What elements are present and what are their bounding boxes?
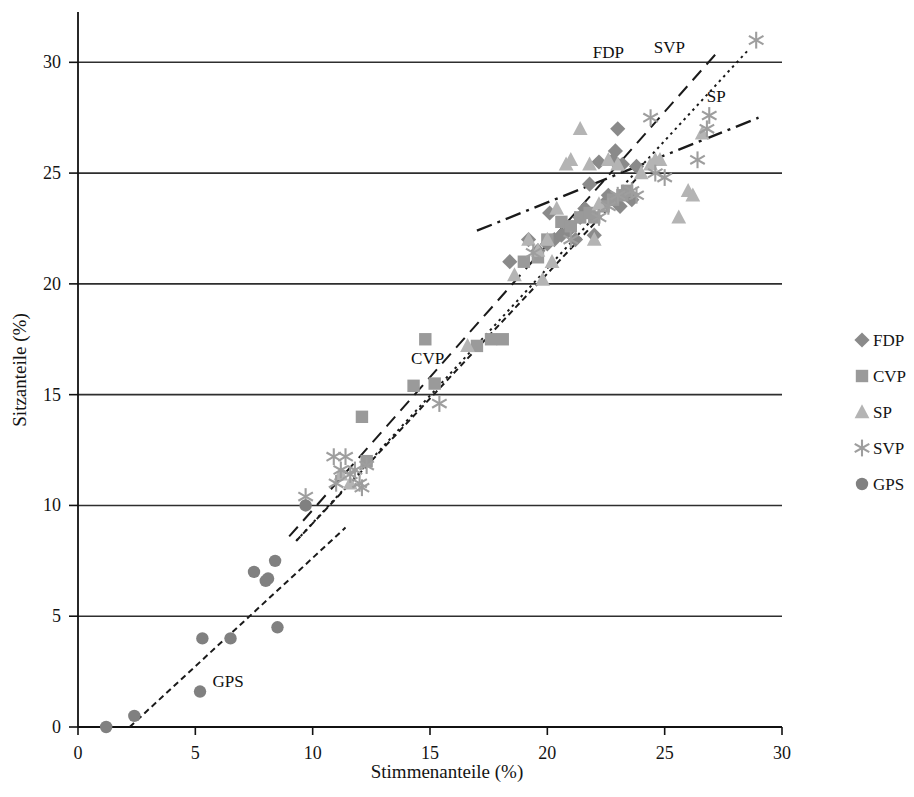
marker-diamond xyxy=(502,254,517,269)
point-cvp-4 xyxy=(428,377,440,389)
point-fdp-20 xyxy=(502,254,517,269)
point-sp-23 xyxy=(545,254,560,268)
marker-asterisk-ray-2 xyxy=(327,457,334,461)
legend-label-gps: GPS xyxy=(873,475,904,494)
marker-asterisk-ray-5 xyxy=(360,479,367,483)
x-tick-label-15: 15 xyxy=(421,743,439,763)
marker-asterisk-ray-1 xyxy=(702,111,709,115)
marker-asterisk-ray-4 xyxy=(336,483,343,487)
marker-diamond xyxy=(854,332,869,347)
marker-asterisk-ray-5 xyxy=(862,444,869,448)
y-tick-label-0: 0 xyxy=(52,717,61,737)
annotation-svp: SVP xyxy=(654,38,685,57)
y-axis-ticks: 051015202530 xyxy=(43,52,78,737)
marker-asterisk-ray-4 xyxy=(698,160,705,164)
legend-label-svp: SVP xyxy=(873,439,904,458)
marker-circle xyxy=(299,499,311,511)
point-cvp-6 xyxy=(485,333,497,345)
point-gps-7 xyxy=(262,572,274,584)
x-tick-label-25: 25 xyxy=(656,743,674,763)
marker-asterisk-ray-1 xyxy=(334,466,341,470)
chart-figure: 051015202530 051015202530 FDPSVPSPCVPGPS… xyxy=(0,0,914,797)
point-gps-1 xyxy=(128,710,140,722)
marker-asterisk-ray-1 xyxy=(298,492,305,496)
x-tick-label-0: 0 xyxy=(74,743,83,763)
marker-circle xyxy=(269,555,281,567)
marker-asterisk-ray-4 xyxy=(756,40,763,44)
point-svp-23 xyxy=(749,32,764,49)
marker-asterisk-ray-5 xyxy=(651,114,658,118)
marker-asterisk-ray-5 xyxy=(709,111,716,115)
marker-asterisk-ray-1 xyxy=(327,452,334,456)
marker-asterisk-ray-5 xyxy=(665,173,672,177)
series-svp xyxy=(298,32,763,505)
marker-square xyxy=(419,333,431,345)
point-cvp-17 xyxy=(518,256,530,268)
marker-asterisk-ray-2 xyxy=(702,115,709,119)
x-tick-label-30: 30 xyxy=(773,743,791,763)
scatter-plot-canvas: 051015202530 051015202530 FDPSVPSPCVPGPS… xyxy=(0,0,914,797)
legend-marker-fdp xyxy=(854,332,869,347)
legend-marker-sp xyxy=(855,404,870,418)
point-sp-4 xyxy=(535,272,550,286)
data-points xyxy=(100,32,764,733)
marker-triangle xyxy=(671,210,686,224)
marker-asterisk-ray-4 xyxy=(665,178,672,182)
marker-triangle xyxy=(573,121,588,135)
trend-line-gps xyxy=(130,528,346,727)
point-svp-24 xyxy=(643,109,658,126)
marker-circle xyxy=(196,632,208,644)
point-sp-21 xyxy=(507,267,522,281)
point-svp-1 xyxy=(327,448,342,465)
point-gps-3 xyxy=(196,632,208,644)
legend-item-cvp: CVP xyxy=(856,367,906,386)
point-cvp-7 xyxy=(497,333,509,345)
series-sp xyxy=(333,121,709,490)
x-axis-ticks: 051015202530 xyxy=(74,727,792,763)
marker-asterisk-ray-5 xyxy=(707,125,714,129)
marker-asterisk-ray-5 xyxy=(346,452,353,456)
point-cvp-0 xyxy=(356,411,368,423)
marker-triangle xyxy=(545,254,560,268)
marker-triangle xyxy=(507,267,522,281)
legend: FDPCVPSPSVPGPS xyxy=(854,331,906,494)
marker-triangle xyxy=(855,404,870,418)
x-tick-label-10: 10 xyxy=(304,743,322,763)
marker-square xyxy=(485,333,497,345)
marker-asterisk-ray-2 xyxy=(690,160,697,164)
marker-asterisk-ray-5 xyxy=(756,36,763,40)
marker-asterisk-ray-1 xyxy=(690,156,697,160)
marker-square xyxy=(518,256,530,268)
point-svp-22 xyxy=(702,107,717,124)
point-gps-2 xyxy=(194,685,206,697)
legend-label-cvp: CVP xyxy=(873,367,906,386)
marker-circle xyxy=(100,721,112,733)
marker-asterisk-ray-5 xyxy=(341,466,348,470)
legend-label-fdp: FDP xyxy=(873,331,904,350)
point-gps-9 xyxy=(271,621,283,633)
marker-asterisk-ray-2 xyxy=(432,404,439,408)
marker-circle xyxy=(856,478,868,490)
marker-asterisk-ray-5 xyxy=(439,399,446,403)
marker-circle xyxy=(224,632,236,644)
annotation-fdp: FDP xyxy=(593,43,624,62)
legend-marker-gps xyxy=(856,478,868,490)
marker-asterisk-ray-4 xyxy=(439,404,446,408)
marker-asterisk-ray-5 xyxy=(306,492,313,496)
marker-square xyxy=(856,370,868,382)
point-sp-17 xyxy=(671,210,686,224)
marker-asterisk-ray-4 xyxy=(862,448,869,452)
marker-circle xyxy=(271,621,283,633)
legend-label-sp: SP xyxy=(873,403,892,422)
x-axis-title: Stimmenanteile (%) xyxy=(371,761,523,783)
legend-item-sp: SP xyxy=(855,403,892,422)
y-tick-label-25: 25 xyxy=(43,163,61,183)
point-sp-9 xyxy=(573,121,588,135)
axes xyxy=(78,12,782,727)
legend-item-svp: SVP xyxy=(855,439,904,458)
marker-asterisk-ray-2 xyxy=(749,40,756,44)
legend-item-gps: GPS xyxy=(856,475,904,494)
marker-asterisk-ray-5 xyxy=(698,156,705,160)
annotation-gps: GPS xyxy=(213,672,244,691)
point-gps-8 xyxy=(269,555,281,567)
